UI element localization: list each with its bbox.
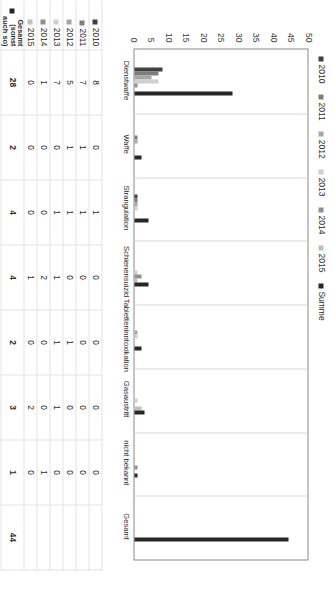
table-row: Gesamt(sonstauch so)2824423144 [0, 0, 23, 570]
bar [134, 537, 288, 541]
bar [134, 79, 159, 83]
y-axis-tick-label: 5 [146, 2, 156, 42]
table-row: 20150001020 [24, 0, 37, 570]
value-axis: 05101520253035404550 [127, 0, 314, 46]
table-cell: 0 [24, 180, 37, 245]
table-row-header: 2012 [63, 0, 76, 50]
table-row-label: 2012 [65, 27, 74, 46]
table-cell: 0 [89, 115, 102, 180]
table-row-header: Gesamt(sonstauch so) [0, 0, 23, 50]
row-swatch-icon [28, 19, 33, 24]
legend-item-label: 2015 [316, 253, 326, 272]
y-axis-tick-label: 45 [286, 2, 296, 42]
legend-item-label: 2011 [316, 102, 326, 120]
row-swatch-icon [54, 19, 59, 24]
legend-swatch-icon [319, 207, 324, 212]
bar [134, 270, 138, 274]
row-swatch-icon [93, 19, 98, 24]
table-cell: 0 [37, 115, 50, 180]
legend-item-label: Summe [316, 291, 326, 320]
legend-item-label: 2012 [316, 139, 326, 158]
category-label-1: Waffe [121, 134, 130, 153]
table-cell [76, 505, 89, 570]
bar [134, 202, 138, 206]
row-swatch-icon [80, 20, 85, 25]
bar-group-4 [134, 304, 309, 368]
bar [134, 91, 232, 95]
legend-item-2014: 2014 [316, 207, 326, 234]
bar [134, 346, 141, 350]
legend-swatch-icon [319, 169, 324, 174]
bar [134, 198, 138, 202]
table-row-label: 2010 [91, 27, 100, 46]
table-cell: 0 [37, 375, 50, 440]
table-cell: 0 [63, 245, 76, 310]
table-row-label: Gesamt(sonstauch so) [1, 16, 23, 46]
table-cell: 1 [89, 180, 102, 245]
y-axis-tick-label: 50 [303, 2, 313, 42]
category-label-5: Gasaustritt [121, 380, 130, 417]
legend-item-2010: 2010 [316, 56, 326, 83]
table-cell: 1 [50, 245, 63, 310]
table-row: 20108010000 [89, 0, 102, 570]
bar [134, 410, 145, 414]
table-cell: 1 [50, 310, 63, 375]
table-cell: 8 [89, 50, 102, 115]
legend-item-label: 2010 [316, 64, 326, 83]
category-label-2: Strangulation [121, 185, 130, 230]
bar [134, 473, 138, 477]
category-label-3: Schienensuizid [121, 246, 130, 297]
bar [134, 194, 138, 198]
table-cell: 0 [24, 310, 37, 375]
table-cell: 1 [63, 180, 76, 245]
row-swatch-icon [9, 8, 14, 13]
bar-group-6 [134, 432, 309, 496]
table-cell: 4 [0, 245, 23, 310]
table-cell: 3 [0, 375, 23, 440]
y-axis-tick-label: 25 [216, 2, 226, 42]
table-cell: 0 [24, 50, 37, 115]
table-cell: 1 [37, 440, 50, 505]
table-cell [50, 505, 63, 570]
table-row-label: 2015 [26, 27, 35, 46]
table-cell: 0 [50, 115, 63, 180]
legend-item-2012: 2012 [316, 131, 326, 158]
table-cell: 5 [63, 50, 76, 115]
table-cell: 2 [0, 310, 23, 375]
table-cell: 0 [37, 310, 50, 375]
legend-swatch-icon [319, 131, 324, 136]
plot-area [133, 48, 308, 560]
chart-root: 201020112012201320142015Summe 0510152025… [0, 0, 334, 597]
table-row: 20141002001 [37, 0, 50, 570]
table-cell: 1 [63, 115, 76, 180]
table-cell: 0 [24, 115, 37, 180]
y-axis-tick-label: 35 [251, 2, 261, 42]
table-cell: 0 [89, 375, 102, 440]
chart-legend: 201020112012201320142015Summe [312, 48, 330, 560]
table-row-label: 2013 [52, 27, 61, 46]
bar [134, 67, 162, 71]
table-cell: 4 [0, 180, 23, 245]
table-cell: 7 [76, 50, 89, 115]
table-row-label: 2011 [78, 28, 87, 46]
table-row-label-line3: auch so) [1, 16, 8, 46]
table-row: 20117110000 [76, 0, 89, 570]
legend-swatch-icon [319, 245, 324, 250]
table-cell: 2 [24, 375, 37, 440]
table-cell: 0 [50, 440, 63, 505]
y-axis-tick-label: 30 [233, 2, 243, 42]
bar [134, 274, 141, 278]
table-cell: 1 [76, 180, 89, 245]
table-cell: 0 [89, 245, 102, 310]
table-cell: 1 [50, 180, 63, 245]
table-cell: 0 [63, 440, 76, 505]
table-cell: 1 [0, 440, 23, 505]
table-cell: 1 [37, 50, 50, 115]
table-cell [24, 505, 37, 570]
category-label-4: Tabletteninntoxikation [121, 298, 130, 371]
table-cell [37, 505, 50, 570]
legend-item-2015: 2015 [316, 245, 326, 272]
bar [134, 465, 138, 469]
table-row-header: 2010 [89, 0, 102, 50]
category-label-6: nicht bekannt [121, 440, 130, 485]
